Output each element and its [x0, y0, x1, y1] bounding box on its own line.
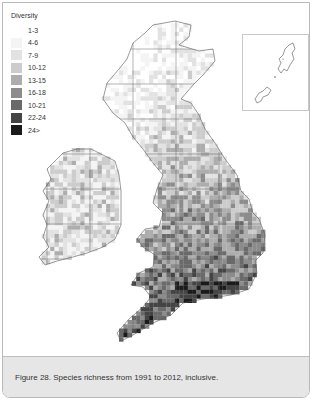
legend-label: 10-12 — [28, 64, 46, 71]
legend-title: Diversity — [11, 12, 46, 19]
legend: Diversity 1-34-67-910-1213-1516-1810-212… — [11, 12, 46, 137]
legend-item: 1-3 — [11, 24, 46, 37]
legend-item: 10-12 — [11, 62, 46, 75]
legend-swatch — [11, 38, 22, 48]
legend-label: 13-15 — [28, 77, 46, 84]
legend-item: 4-6 — [11, 37, 46, 50]
figure-frame: Diversity 1-34-67-910-1213-1516-1810-212… — [2, 2, 310, 398]
legend-swatch — [11, 63, 22, 73]
species-richness-map: Diversity 1-34-67-910-1213-1516-1810-212… — [3, 3, 309, 355]
legend-label: 24> — [28, 127, 40, 134]
legend-item: 24> — [11, 124, 46, 137]
shetland-outline-icon — [243, 35, 308, 110]
shetland-inset — [242, 34, 309, 111]
legend-swatch — [11, 125, 22, 135]
legend-item: 13-15 — [11, 74, 46, 87]
legend-item: 22-24 — [11, 112, 46, 125]
legend-label: 16-18 — [28, 89, 46, 96]
legend-swatch — [11, 113, 22, 123]
legend-label: 7-9 — [28, 52, 38, 59]
legend-label: 10-21 — [28, 102, 46, 109]
legend-item: 16-18 — [11, 87, 46, 100]
figure-caption: Figure 28. Species richness from 1991 to… — [3, 356, 309, 398]
legend-swatch — [11, 100, 22, 110]
legend-swatch — [11, 75, 22, 85]
legend-label: 22-24 — [28, 114, 46, 121]
legend-label: 4-6 — [28, 39, 38, 46]
legend-swatch — [11, 50, 22, 60]
legend-label: 1-3 — [28, 27, 38, 34]
legend-item: 10-21 — [11, 99, 46, 112]
caption-text: Figure 28. Species richness from 1991 to… — [15, 373, 218, 382]
legend-swatch — [11, 88, 22, 98]
legend-item: 7-9 — [11, 49, 46, 62]
legend-swatch — [11, 25, 22, 35]
